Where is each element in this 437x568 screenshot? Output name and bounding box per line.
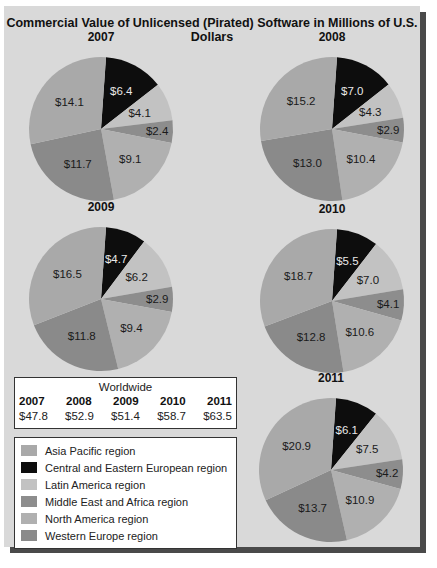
pie-slice-label: $4.1 bbox=[128, 107, 150, 119]
pie-slice-label: $10.9 bbox=[346, 494, 375, 506]
pie-slice-label: $4.2 bbox=[376, 467, 398, 479]
pie-slice-label: $18.7 bbox=[284, 270, 313, 282]
pie-chart: $4.7$6.2$2.9$9.4$11.8$16.5 bbox=[16, 200, 186, 375]
pie-year-label: 2011 bbox=[246, 371, 416, 385]
pie-2010: $5.5$7.0$4.1$10.6$12.8$18.7 2010 bbox=[247, 202, 417, 372]
chart-panel: Commercial Value of Unlicensed (Pirated)… bbox=[4, 6, 420, 547]
pie-slice-label: $4.1 bbox=[377, 298, 399, 310]
legend-swatch bbox=[21, 445, 37, 456]
pie-year-label: 2009 bbox=[16, 200, 186, 214]
legend-swatch bbox=[21, 479, 37, 490]
pie-slice-label: $6.4 bbox=[110, 85, 133, 97]
pie-2008: $7.0$4.3$2.9$10.4$13.0$15.2 2008 bbox=[247, 30, 417, 200]
legend: Asia Pacific region Central and Eastern … bbox=[14, 437, 237, 549]
legend-item-western-europe: Western Europe region bbox=[21, 528, 158, 543]
pie-slice-label: $13.0 bbox=[293, 157, 322, 169]
pie-slice-label: $7.0 bbox=[341, 85, 363, 97]
legend-label: North America region bbox=[45, 513, 148, 525]
pie-slice-label: $4.3 bbox=[359, 106, 381, 118]
pie-chart: $6.1$7.5$4.2$10.9$13.7$20.9 bbox=[246, 371, 416, 546]
worldwide-value: $52.9 bbox=[65, 410, 94, 422]
worldwide-year: 2009 bbox=[113, 395, 139, 407]
pie-slice-label: $6.1 bbox=[336, 424, 358, 436]
legend-swatch bbox=[21, 513, 37, 524]
pie-slice-label: $20.9 bbox=[282, 440, 311, 452]
worldwide-years-row: 2007 2008 2009 2010 2011 bbox=[19, 395, 232, 407]
pie-slice-label: $11.8 bbox=[68, 330, 96, 342]
legend-swatch bbox=[21, 462, 37, 473]
pie-slice-label: $12.8 bbox=[297, 331, 326, 343]
worldwide-value: $58.7 bbox=[157, 410, 186, 422]
pie-year-label: 2008 bbox=[247, 30, 417, 44]
pie-slice-label: $16.5 bbox=[53, 268, 82, 280]
legend-label: Latin America region bbox=[45, 479, 145, 491]
pie-chart: $7.0$4.3$2.9$10.4$13.0$15.2 bbox=[247, 30, 417, 205]
legend-item-latin-america: Latin America region bbox=[21, 477, 145, 492]
pie-slice-label: $6.2 bbox=[125, 271, 147, 283]
pie-year-label: 2010 bbox=[247, 202, 417, 216]
legend-swatch bbox=[21, 496, 37, 507]
pie-slice-label: $15.2 bbox=[287, 95, 316, 107]
pie-2011: $6.1$7.5$4.2$10.9$13.7$20.9 2011 bbox=[246, 371, 416, 541]
pie-slice-label: $14.1 bbox=[55, 96, 84, 108]
pie-slice-label: $7.0 bbox=[357, 274, 379, 286]
legend-item-north-america: North America region bbox=[21, 511, 148, 526]
worldwide-value: $47.8 bbox=[19, 410, 48, 422]
worldwide-year: 2007 bbox=[19, 395, 45, 407]
pie-slice-label: $7.5 bbox=[356, 443, 378, 455]
legend-label: Middle East and Africa region bbox=[45, 496, 188, 508]
worldwide-values-row: $47.8 $52.9 $51.4 $58.7 $63.5 bbox=[19, 410, 232, 422]
pie-2007: $6.4$4.1$2.4$9.1$11.7$14.1 2007 bbox=[16, 30, 186, 200]
legend-label: Asia Pacific region bbox=[45, 445, 136, 457]
worldwide-title: Worldwide bbox=[15, 381, 236, 393]
worldwide-year: 2011 bbox=[207, 395, 232, 407]
worldwide-value: $63.5 bbox=[203, 410, 232, 422]
pie-year-label: 2007 bbox=[16, 30, 186, 44]
worldwide-year: 2008 bbox=[66, 395, 92, 407]
legend-label: Central and Eastern European region bbox=[45, 462, 227, 474]
legend-swatch bbox=[21, 530, 37, 541]
pie-slice-label: $2.9 bbox=[146, 293, 168, 305]
pie-2009: $4.7$6.2$2.9$9.4$11.8$16.5 2009 bbox=[16, 200, 186, 370]
legend-item-middle-east-africa: Middle East and Africa region bbox=[21, 494, 188, 509]
pie-slice-label: $4.7 bbox=[105, 253, 127, 265]
pie-slice-label: $2.4 bbox=[146, 125, 169, 137]
legend-item-asia-pacific: Asia Pacific region bbox=[21, 443, 136, 458]
pie-slice-label: $13.7 bbox=[298, 502, 327, 514]
pie-chart: $5.5$7.0$4.1$10.6$12.8$18.7 bbox=[247, 202, 417, 377]
pie-slice-label: $10.6 bbox=[345, 326, 374, 338]
pie-slice-label: $9.4 bbox=[120, 322, 143, 334]
worldwide-year: 2010 bbox=[160, 395, 186, 407]
pie-slice-label: $9.1 bbox=[119, 153, 141, 165]
worldwide-value: $51.4 bbox=[111, 410, 140, 422]
legend-label: Western Europe region bbox=[45, 530, 158, 542]
worldwide-table: Worldwide 2007 2008 2009 2010 2011 $47.8… bbox=[14, 377, 237, 429]
pie-slice-label: $2.9 bbox=[377, 124, 399, 136]
legend-item-central-eastern-europe: Central and Eastern European region bbox=[21, 460, 227, 475]
pie-slice-label: $11.7 bbox=[64, 158, 92, 170]
pie-slice-label: $10.4 bbox=[347, 153, 376, 165]
pie-slice-label: $5.5 bbox=[336, 255, 358, 267]
pie-chart: $6.4$4.1$2.4$9.1$11.7$14.1 bbox=[16, 30, 186, 205]
